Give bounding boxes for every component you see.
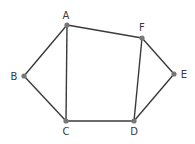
edge-F-E bbox=[142, 38, 174, 74]
node-E bbox=[171, 71, 176, 76]
node-F bbox=[139, 35, 144, 40]
node-label-E: E bbox=[181, 69, 187, 80]
nodes bbox=[21, 22, 176, 123]
edge-B-C bbox=[24, 76, 66, 121]
node-label-B: B bbox=[11, 71, 18, 82]
node-A bbox=[64, 22, 69, 27]
edges bbox=[24, 25, 174, 121]
labels: ABCDEF bbox=[11, 10, 188, 137]
edge-A-F bbox=[67, 25, 142, 38]
edge-A-B bbox=[24, 25, 67, 76]
node-label-D: D bbox=[130, 126, 138, 137]
graph-diagram: ABCDEF bbox=[0, 0, 195, 144]
node-label-A: A bbox=[63, 10, 70, 21]
node-B bbox=[21, 73, 26, 78]
edge-D-F bbox=[134, 38, 142, 121]
node-label-C: C bbox=[63, 126, 70, 137]
node-C bbox=[63, 118, 68, 123]
node-label-F: F bbox=[139, 22, 145, 33]
node-D bbox=[131, 118, 136, 123]
edge-E-D bbox=[134, 74, 174, 121]
edge-A-C bbox=[66, 25, 67, 121]
